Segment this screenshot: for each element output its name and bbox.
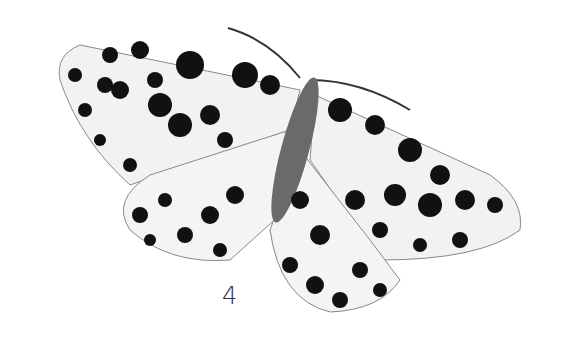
figure-label: 4 [222,282,237,310]
moth-illustration [0,0,563,339]
